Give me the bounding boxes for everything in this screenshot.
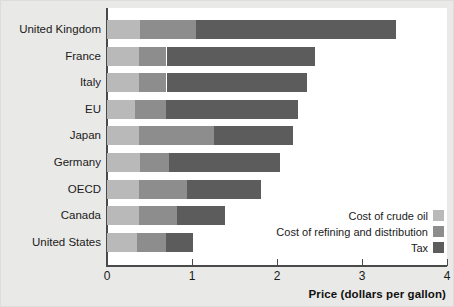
bar-segment-refining [140, 153, 169, 172]
bar-segment-crude [107, 73, 139, 92]
bar-segment-refining [140, 20, 196, 39]
bar-segment-refining [139, 47, 166, 66]
bar-segment-tax [214, 126, 293, 145]
bar-segment-crude [107, 180, 139, 199]
bar-segment-crude [107, 47, 139, 66]
legend-color-swatch [433, 226, 444, 237]
legend-item-label: Cost of refining and distribution [276, 226, 428, 238]
chart-legend: Cost of crude oilCost of refining and di… [254, 208, 444, 256]
bar-segment-tax [166, 233, 193, 252]
bar-segment-refining [135, 100, 166, 119]
legend-item: Cost of crude oil [254, 208, 444, 223]
bar-segment-refining [139, 180, 187, 199]
y-axis-label: Germany [0, 156, 101, 168]
bar-segment-crude [107, 153, 140, 172]
bar-segment-tax [169, 153, 280, 172]
x-axis-tick-label: 3 [347, 269, 377, 283]
x-axis-tick-mark [277, 259, 278, 266]
bar-segment-refining [139, 206, 176, 225]
x-axis-tick-label: 1 [177, 269, 207, 283]
bar-segment-crude [107, 206, 139, 225]
bar-segment-crude [107, 233, 137, 252]
x-axis-tick-mark [362, 259, 363, 266]
chart-figure: United KingdomFranceItalyEUJapanGermanyO… [0, 0, 454, 307]
legend-color-swatch [433, 210, 444, 221]
y-axis-label: Italy [0, 76, 101, 88]
legend-item: Cost of refining and distribution [254, 224, 444, 239]
bar-segment-tax [187, 180, 261, 199]
x-axis-tick-label: 0 [92, 269, 122, 283]
bar-segment-tax [196, 20, 396, 39]
x-axis-tick-label: 2 [262, 269, 292, 283]
bar-segment-refining [137, 233, 166, 252]
bar-segment-tax [167, 73, 307, 92]
legend-color-swatch [433, 242, 444, 253]
bar-segment-crude [107, 100, 135, 119]
x-axis-tick-mark [192, 259, 193, 266]
bar-segment-tax [177, 206, 225, 225]
y-axis-label: United States [0, 236, 101, 248]
bar-segment-crude [107, 20, 140, 39]
legend-item-label: Cost of crude oil [349, 210, 428, 222]
y-axis-label: United Kingdom [0, 23, 101, 35]
x-axis-tick-label: 4 [432, 269, 454, 283]
legend-item-label: Tax [411, 242, 428, 254]
bar-segment-tax [167, 47, 316, 66]
x-axis-tick-mark [107, 259, 108, 266]
bar-segment-refining [139, 73, 166, 92]
legend-item: Tax [254, 240, 444, 255]
y-axis-label: EU [0, 103, 101, 115]
y-axis-label: France [0, 50, 101, 62]
bar-segment-crude [107, 126, 139, 145]
bar-segment-refining [139, 126, 214, 145]
y-axis-label: OECD [0, 183, 101, 195]
y-axis-label: Canada [0, 209, 101, 221]
x-axis-title: Price (dollars per gallon) [309, 288, 446, 300]
bar-segment-tax [166, 100, 299, 119]
x-axis-tick-mark [447, 259, 448, 266]
y-axis-label: Japan [0, 129, 101, 141]
